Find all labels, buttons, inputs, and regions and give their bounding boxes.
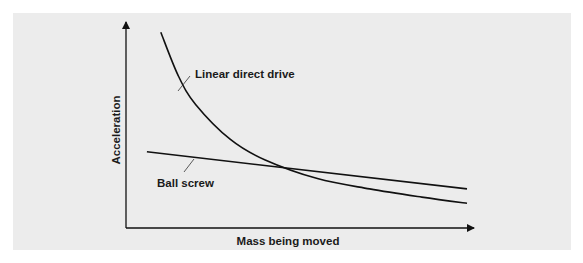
annotation-linear-direct-drive: Linear direct drive	[195, 68, 295, 80]
leader-line-ball-screw	[184, 159, 194, 172]
y-axis-label: Acceleration	[110, 95, 122, 164]
annotation-ball-screw: Ball screw	[157, 177, 214, 189]
x-axis-label: Mass being moved	[237, 235, 340, 247]
chart: Linear direct drive Ball screw Mass bein…	[0, 0, 583, 263]
